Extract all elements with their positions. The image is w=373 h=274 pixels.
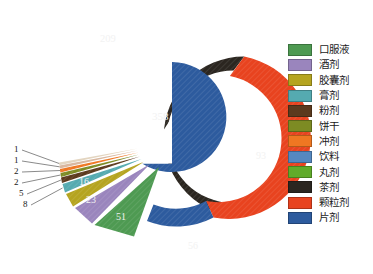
legend-swatch-icon	[288, 181, 312, 193]
legend-item-11[interactable]: 片剂	[288, 210, 372, 225]
legend-swatch-icon	[288, 74, 312, 86]
leader-label-5: 5	[19, 188, 24, 198]
leader-line-1	[22, 150, 59, 164]
leader-lines	[22, 150, 63, 205]
legend-item-label: 饼干	[319, 121, 339, 132]
chart-legend: 口服液酒剂胶囊剂膏剂粉剂饼干冲剂饮料丸剂茶剂颗粒剂片剂	[288, 42, 372, 226]
leader-label-3: 2	[14, 166, 19, 176]
leader-line-3	[22, 171, 60, 173]
leader-label-1: 1	[14, 144, 19, 154]
legend-item-0[interactable]: 口服液	[288, 42, 372, 57]
legend-swatch-icon	[288, 151, 312, 163]
legend-item-label: 膏剂	[319, 90, 339, 101]
figure-caption	[0, 268, 373, 274]
legend-item-1[interactable]: 酒剂	[288, 57, 372, 72]
legend-swatch-icon	[288, 166, 312, 178]
legend-item-7[interactable]: 饮料	[288, 149, 372, 164]
legend-swatch-icon	[288, 105, 312, 117]
legend-item-label: 丸剂	[319, 167, 339, 178]
legend-item-2[interactable]: 胶囊剂	[288, 73, 372, 88]
legend-item-label: 片剂	[319, 212, 339, 223]
legend-item-label: 饮料	[319, 151, 339, 162]
legend-item-label: 颗粒剂	[319, 197, 350, 208]
legend-item-label: 茶剂	[319, 182, 339, 193]
legend-item-label: 粉剂	[319, 105, 339, 116]
legend-item-10[interactable]: 颗粒剂	[288, 195, 372, 210]
legend-item-8[interactable]: 丸剂	[288, 164, 372, 179]
leader-label-2: 1	[14, 155, 19, 165]
legend-swatch-icon	[288, 59, 312, 71]
legend-item-5[interactable]: 饼干	[288, 118, 372, 133]
legend-item-label: 口服液	[319, 44, 350, 55]
pie-notch-edge	[142, 117, 172, 164]
legend-item-label: 胶囊剂	[319, 75, 350, 86]
legend-swatch-icon	[288, 212, 312, 224]
ring-segment-pian-ji-texture	[147, 201, 214, 227]
leader-line-4	[22, 175, 61, 183]
leader-label-6: 8	[23, 199, 28, 209]
legend-swatch-icon	[288, 120, 312, 132]
leader-label-4: 2	[14, 177, 19, 187]
legend-item-3[interactable]: 膏剂	[288, 88, 372, 103]
chart-container: 358 209 93 56 51 23 16 1 1 2 2 5 8 口服液酒剂…	[0, 0, 373, 274]
legend-item-label: 酒剂	[319, 59, 339, 70]
legend-swatch-icon	[288, 135, 312, 147]
legend-swatch-icon	[288, 90, 312, 102]
legend-item-6[interactable]: 冲剂	[288, 134, 372, 149]
legend-swatch-icon	[288, 44, 312, 56]
legend-swatch-icon	[288, 197, 312, 209]
legend-item-4[interactable]: 粉剂	[288, 103, 372, 118]
legend-item-label: 冲剂	[319, 136, 339, 147]
legend-item-9[interactable]: 茶剂	[288, 180, 372, 195]
